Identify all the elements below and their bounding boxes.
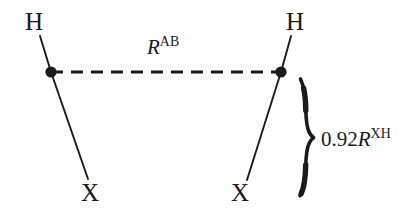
molecular-geometry-figure: H H X X RAB 0.92RXH [0, 0, 419, 213]
bond-line-right-x [247, 72, 281, 180]
bond-distance-label: 0.92RXH [321, 127, 391, 150]
separation-symbol: R [147, 35, 160, 59]
centre-marker-b [275, 66, 286, 77]
atom-label-h-left: H [25, 9, 43, 34]
atom-label-x-right: X [231, 180, 249, 205]
curly-brace-accent-bottom [301, 165, 306, 194]
bond-superscript: XH [371, 126, 391, 141]
figure-canvas [0, 0, 419, 213]
bond-symbol: R [358, 127, 371, 151]
bond-line-right-h [281, 36, 291, 72]
separation-superscript: AB [160, 34, 180, 49]
separation-distance-label: RAB [147, 35, 179, 58]
bond-line-left-h [40, 36, 51, 72]
atom-label-x-left: X [81, 180, 99, 205]
atom-label-h-right: H [286, 9, 304, 34]
curly-brace-accent-top [304, 88, 306, 111]
bond-line-left-x [51, 72, 88, 179]
centre-marker-a [45, 66, 56, 77]
bond-coefficient: 0.92 [321, 127, 358, 151]
